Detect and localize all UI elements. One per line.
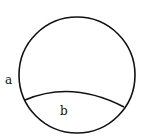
circle-diagram: a b <box>0 0 141 139</box>
chord-arc <box>25 91 124 107</box>
outer-circle <box>19 17 135 133</box>
label-b: b <box>60 104 68 118</box>
label-a: a <box>5 73 12 87</box>
